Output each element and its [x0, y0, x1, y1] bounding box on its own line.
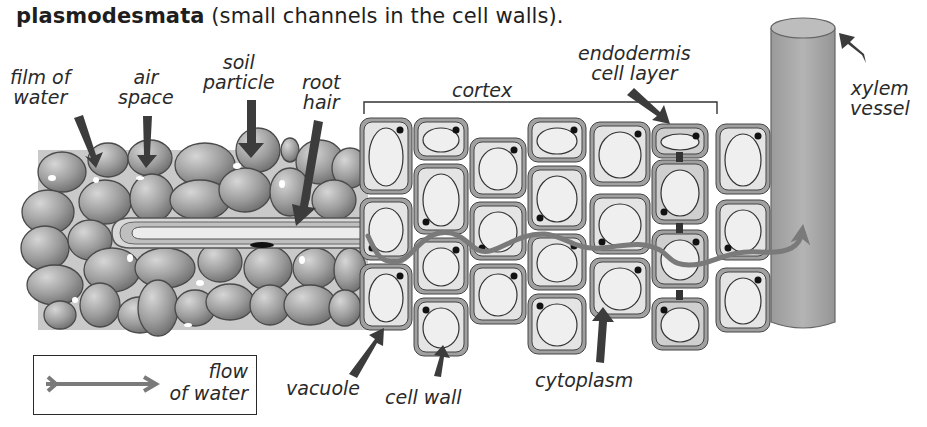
arrow-endodermis	[627, 88, 670, 124]
arrow-xylem	[839, 33, 866, 63]
cortex-cells	[360, 118, 770, 356]
legend-label: flow of water	[170, 360, 249, 404]
label-root-hair: roothair	[302, 72, 341, 112]
label-vacuole: vacuole	[286, 378, 360, 398]
xylem-vessel	[771, 18, 835, 328]
label-soil-particle: soilparticle	[203, 52, 275, 92]
arrow-vacuole	[349, 328, 384, 378]
label-cell-wall: cell wall	[385, 387, 461, 407]
label-film-of-water: film ofwater	[10, 67, 70, 107]
legend-box: flow of water	[33, 355, 257, 415]
label-air-space: airspace	[118, 67, 174, 107]
root-water-uptake-diagram: plasmodesmata (small channels in the cel…	[0, 0, 927, 427]
root-hair	[112, 218, 372, 248]
label-xylem-vessel: xylemvessel	[850, 78, 910, 118]
label-cortex: cortex	[452, 80, 512, 100]
arrow-right-icon	[44, 374, 164, 394]
label-cytoplasm: cytoplasm	[535, 370, 633, 390]
label-endodermis: endodermiscell layer	[578, 43, 691, 83]
